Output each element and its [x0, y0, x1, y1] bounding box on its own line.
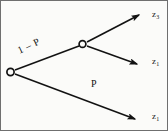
leaf-top-subscript: 3	[156, 14, 159, 20]
leaf-bottom-subscript: 1	[156, 116, 159, 122]
leaf-label-top: z3	[152, 9, 159, 19]
edge-branch-to-top	[87, 15, 139, 42]
root-node	[7, 68, 14, 75]
branch-node	[79, 41, 86, 48]
edge-branch-to-middle	[87, 46, 137, 64]
leaf-middle-subscript: 1	[156, 61, 159, 67]
figure-container: 1 – P P z3 z1 z1	[0, 0, 168, 131]
tree-diagram-canvas	[1, 1, 168, 131]
leaf-label-middle: z1	[152, 56, 159, 66]
edge-lower-p	[15, 74, 135, 119]
edge-upper-one-minus-p	[15, 46, 79, 70]
leaf-label-bottom: z1	[152, 111, 159, 121]
